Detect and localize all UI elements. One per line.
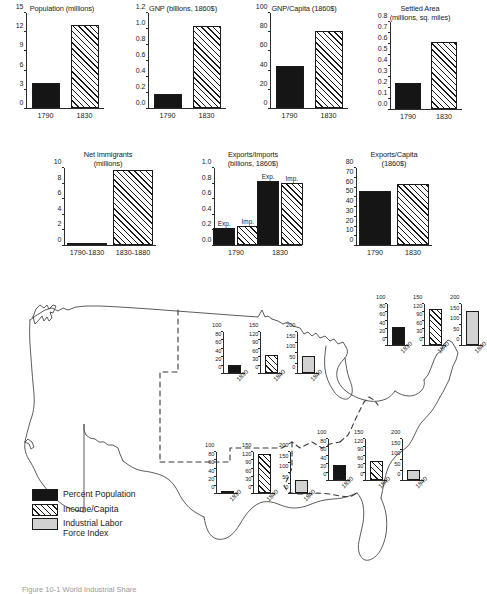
chart-exports-imports: Exports/Imports (billions, 1860$)0.00.20…	[190, 150, 316, 246]
y-tick-mark	[251, 451, 253, 452]
y-tick-label: 80	[334, 158, 357, 165]
y-tick-mark	[62, 167, 65, 168]
y-tick-label: 0.6	[364, 34, 391, 41]
y-tick-label: 150	[240, 324, 260, 330]
y-axis	[328, 439, 329, 481]
bar-1790	[395, 83, 421, 109]
bar-value	[466, 311, 479, 345]
x-tick-label: 1830	[77, 109, 93, 120]
bar-value	[392, 327, 405, 345]
y-tick-mark	[288, 451, 290, 452]
y-tick-mark	[354, 167, 357, 168]
x-tick-label: 1790	[367, 246, 383, 257]
legend-swatch-hatch	[32, 504, 58, 516]
y-tick-label: 200	[382, 431, 402, 437]
plot-area: 0.00.20.40.60.81.0Exp.Imp.1790Exp.Imp.18…	[214, 168, 302, 246]
mini-chart-percent-population: 0204060801001830	[205, 332, 227, 374]
y-tick-mark	[400, 438, 402, 439]
x-tick-label: 1830	[436, 110, 452, 121]
y-tick-mark	[268, 70, 271, 71]
y-tick-mark	[146, 44, 149, 45]
y-tick-label: 0.8	[188, 173, 215, 180]
y-tick-mark	[363, 446, 365, 447]
y-tick-label: 0.2	[364, 78, 391, 85]
y-tick-mark	[295, 373, 297, 374]
y-axis	[216, 452, 217, 494]
bar-series-label: Exp.	[218, 220, 231, 227]
y-tick-mark	[388, 87, 391, 88]
chart-settled-area: Settled Area (millions, sq. miles)0.00.1…	[366, 4, 474, 110]
y-tick-label: 150	[345, 431, 365, 437]
figure-caption: Figure 10-1 World Industrial Share	[22, 585, 137, 594]
mini-chart-industrial-labor-force-index: 0501001502001840	[384, 439, 406, 481]
legend-label: Percent Population	[63, 489, 136, 499]
y-tick-label: 70	[334, 167, 357, 174]
y-axis	[387, 304, 388, 346]
bar-value	[407, 470, 420, 481]
y-tick-label: 30	[404, 329, 424, 335]
bar-1830	[431, 42, 457, 109]
y-tick-mark	[24, 50, 27, 51]
y-tick-mark	[354, 177, 357, 178]
y-tick-label: 8	[42, 173, 65, 180]
x-tick-label: 1790	[160, 109, 176, 120]
chart-gnp-capita: GNP/Capita (1860$)02040608010017901830	[248, 4, 360, 109]
y-axis	[64, 168, 65, 246]
y-tick-mark	[354, 196, 357, 197]
y-tick-label: 30	[233, 477, 253, 483]
mini-chart-industrial-labor-force-index: 0501001502001840	[272, 452, 294, 494]
y-tick-mark	[214, 493, 216, 494]
y-tick-label: 40	[246, 60, 271, 67]
y-tick-label: 0.8	[122, 35, 149, 42]
bar-value	[302, 356, 315, 373]
y-tick-mark	[24, 12, 27, 13]
y-tick-label: 20	[196, 477, 216, 483]
y-tick-mark	[251, 476, 253, 477]
y-tick-mark	[388, 65, 391, 66]
y-axis	[260, 332, 261, 374]
y-tick-label: 0.7	[364, 23, 391, 30]
y-tick-mark	[62, 183, 65, 184]
y-tick-label: 150	[233, 444, 253, 450]
y-tick-label: 120	[233, 452, 253, 458]
legend-item: Percent Population	[32, 489, 136, 501]
y-tick-mark	[251, 459, 253, 460]
y-tick-mark	[288, 472, 290, 473]
x-tick-label: 1790	[400, 110, 416, 121]
bar-1830	[397, 184, 429, 245]
y-tick-label: 20	[246, 79, 271, 86]
bar-value	[265, 355, 278, 373]
y-tick-label: 0	[308, 473, 328, 479]
y-tick-label: 150	[382, 441, 402, 447]
y-tick-mark	[295, 342, 297, 343]
y-axis	[424, 304, 425, 346]
y-tick-label: 100	[382, 452, 402, 458]
y-tick-label: 0	[345, 473, 365, 479]
y-tick-mark	[354, 235, 357, 236]
y-tick-mark	[212, 245, 215, 246]
y-tick-mark	[459, 324, 461, 325]
plot-area: 0.00.10.20.30.40.50.60.70.817901830	[390, 22, 462, 110]
y-tick-mark	[400, 470, 402, 471]
y-tick-label: 0.0	[122, 99, 149, 106]
y-tick-label: 0.6	[122, 51, 149, 58]
y-tick-mark	[354, 187, 357, 188]
chart-population: Population (millions)0369121517901830	[6, 4, 118, 109]
mini-chart-percent-population: 0204060801001830	[310, 439, 332, 481]
y-tick-mark	[214, 468, 216, 469]
y-tick-label: 30	[240, 357, 260, 363]
y-tick-label: 40	[334, 197, 357, 204]
mini-chart-income-capita: 03060901201501840	[347, 439, 369, 481]
y-tick-mark	[268, 50, 271, 51]
y-tick-label: 50	[382, 462, 402, 468]
y-tick-mark	[146, 108, 149, 109]
y-tick-mark	[288, 483, 290, 484]
y-tick-label: 100	[270, 465, 290, 471]
y-tick-label: 50	[334, 187, 357, 194]
chart-net-immigrants: Net Immigrants (millions)02468101790-183…	[44, 150, 172, 246]
y-tick-mark	[146, 60, 149, 61]
y-tick-mark	[422, 337, 424, 338]
plot-area: 0501001502001840	[402, 439, 424, 481]
y-tick-label: 80	[203, 332, 223, 338]
y-tick-mark	[459, 335, 461, 336]
